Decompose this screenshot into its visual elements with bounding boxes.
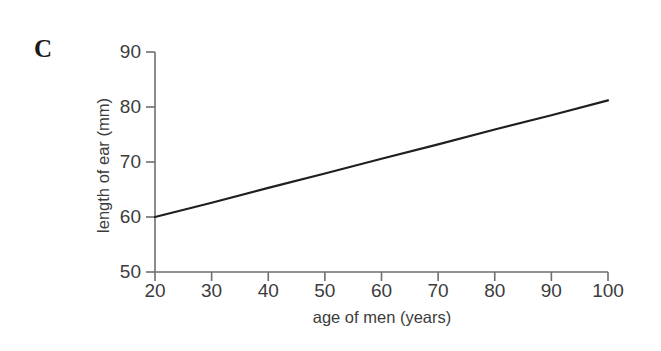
data-series bbox=[155, 100, 608, 217]
series-line bbox=[155, 100, 608, 217]
figure-panel-c: C length of ear (mm) age of men (years) … bbox=[0, 0, 661, 351]
tick-marks bbox=[146, 52, 608, 281]
axis-lines bbox=[155, 52, 608, 272]
plot-area bbox=[0, 0, 661, 351]
